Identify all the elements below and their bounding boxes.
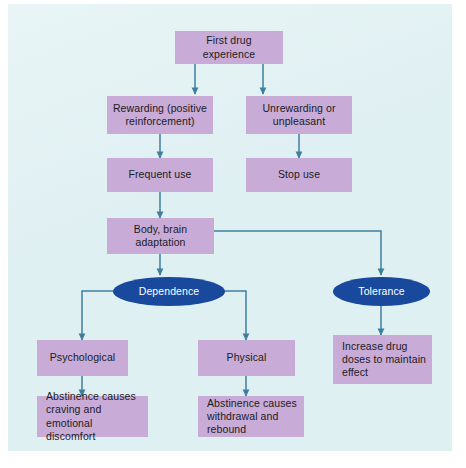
node-rewarding[interactable]: Rewarding (positive reinforcement) (107, 96, 213, 134)
node-label: Physical (203, 351, 290, 364)
node-unrewarding[interactable]: Unrewarding or unpleasant (246, 96, 352, 134)
node-increase-drug-doses[interactable]: Increase drug doses to maintain effect (333, 335, 432, 384)
node-label: Tolerance (333, 285, 430, 298)
node-body-brain-adaptation[interactable]: Body, brain adaptation (107, 218, 214, 254)
node-dependence[interactable]: Dependence (113, 277, 225, 306)
node-stop-use[interactable]: Stop use (246, 158, 352, 192)
node-label: Dependence (113, 285, 225, 298)
node-label: Abstinence causes craving and emotional … (46, 390, 143, 443)
node-physical[interactable]: Physical (198, 340, 295, 376)
node-label: Psychological (42, 351, 123, 364)
edge-adaptation-to-tolerance (214, 231, 381, 275)
flowchart-canvas: First drug experience Rewarding (positiv… (0, 0, 466, 468)
node-label: Abstinence causes withdrawal and rebound (207, 397, 299, 437)
node-label: Unrewarding or unpleasant (251, 102, 347, 128)
edge-dependence-to-psychological (82, 291, 113, 340)
node-first-drug-experience[interactable]: First drug experience (175, 31, 283, 64)
node-label: First drug experience (180, 34, 278, 60)
node-psychological[interactable]: Psychological (37, 340, 128, 376)
node-abstinence-physical[interactable]: Abstinence causes withdrawal and rebound (198, 396, 304, 437)
edge-dependence-to-physical (225, 291, 246, 340)
node-abstinence-psychological[interactable]: Abstinence causes craving and emotional … (37, 396, 148, 437)
node-label: Stop use (251, 168, 347, 181)
node-label: Frequent use (112, 168, 208, 181)
node-tolerance[interactable]: Tolerance (333, 277, 430, 306)
node-frequent-use[interactable]: Frequent use (107, 158, 213, 192)
node-label: Increase drug doses to maintain effect (342, 340, 427, 380)
node-label: Body, brain adaptation (112, 223, 209, 249)
node-label: Rewarding (positive reinforcement) (112, 102, 208, 128)
